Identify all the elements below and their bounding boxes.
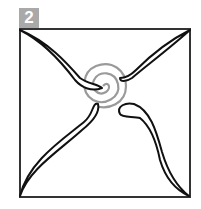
petal-top-left	[20, 30, 102, 90]
folding-diagram	[0, 0, 201, 209]
petal-top-right	[120, 30, 190, 81]
petal-bottom-right	[119, 103, 189, 196]
petal-bottom-left	[20, 104, 98, 196]
